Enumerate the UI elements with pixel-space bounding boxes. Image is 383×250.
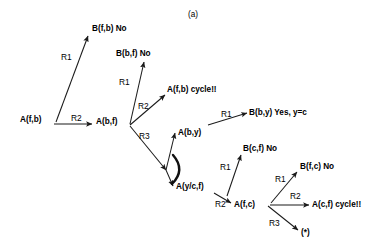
edge-e-split-aby <box>166 133 175 170</box>
node-label-n-afb: A(f,b) <box>20 115 41 124</box>
rule-label-r-7: R1 <box>220 162 231 172</box>
rule-label-r-5: R3 <box>139 131 150 141</box>
node-label-n-bfb-no: B(f,b) No <box>92 24 127 33</box>
node-label-n-afc: A(f,c) <box>234 200 255 209</box>
figure-canvas: A(f,b)B(f,b) NoA(b,f)B(b,f) NoA(f,b) cyc… <box>0 0 383 250</box>
rule-label-r-1: R1 <box>61 52 72 62</box>
node-label-n-aby: A(b,y) <box>178 128 201 137</box>
node-label-n-bby-yes: B(b,y) Yes, y=c <box>249 108 307 117</box>
node-label-n-abf: A(b,f) <box>96 117 117 126</box>
node-label-n-afb-cyc: A(f,b) cycle!! <box>167 85 217 94</box>
diagram-edges-layer <box>0 0 383 250</box>
node-label-n-aycf: A(y/c,f) <box>176 182 204 191</box>
node-label-n-acf-cyc: A(c,f) cycle!! <box>312 200 361 209</box>
node-label-n-star: (*) <box>301 228 310 237</box>
rule-label-r-8: R2 <box>215 199 226 209</box>
node-label-n-bbf-no: B(b,f) No <box>116 49 151 58</box>
rule-label-r-3: R1 <box>119 77 130 87</box>
edge-e-afb-bfb <box>56 36 88 122</box>
node-label-n-bfc-no: B(f,c) No <box>300 162 334 171</box>
figure-caption: (a) <box>188 10 198 19</box>
rule-label-r-6: R1 <box>221 109 232 119</box>
rule-label-r-10: R2 <box>290 191 301 201</box>
rule-label-r-4: R2 <box>138 101 149 111</box>
angle-arc-marker <box>172 155 179 184</box>
rule-label-r-9: R1 <box>275 174 286 184</box>
node-label-n-bcf-no: B(c,f) No <box>243 144 277 153</box>
rule-label-r-2: R2 <box>71 113 82 123</box>
rule-label-r-11: R3 <box>269 218 280 228</box>
